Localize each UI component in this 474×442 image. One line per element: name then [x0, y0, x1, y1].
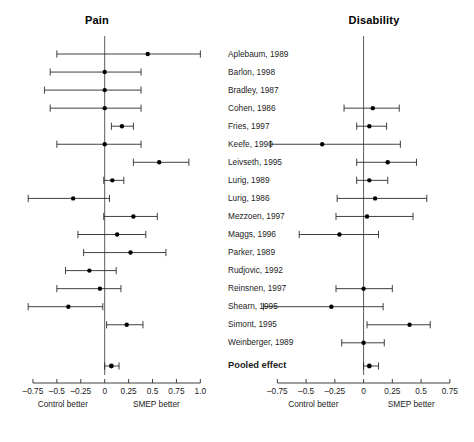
x-axis-tick-label: 0.5 [147, 386, 159, 396]
forest-row [28, 195, 109, 202]
effect-marker [367, 124, 371, 128]
study-label: Shearn, 1995 [228, 302, 278, 310]
forest-row [336, 285, 392, 292]
axis-caption-control-better: Control better [15, 399, 111, 409]
effect-marker [120, 124, 124, 128]
effect-marker [102, 142, 106, 146]
study-label: Rudjovic, 1992 [228, 266, 283, 274]
effect-marker [371, 106, 375, 110]
forest-row [28, 303, 103, 310]
effect-marker [124, 323, 128, 327]
effect-marker [102, 106, 106, 110]
forest-row [342, 339, 385, 346]
effect-marker [115, 232, 119, 236]
forest-row [357, 177, 388, 184]
x-axis-tick-label: 0 [361, 386, 366, 396]
x-axis-tick-label: 0.25 [384, 386, 400, 396]
forest-row [299, 231, 378, 238]
axis-caption-control-better: Control better [257, 399, 370, 409]
effect-marker [87, 268, 91, 272]
forest-row [270, 141, 400, 148]
study-label: Barlon, 1998 [228, 68, 275, 76]
effect-marker [361, 341, 365, 345]
study-label: Weinberger, 1989 [228, 338, 293, 346]
x-axis-tick-label: –0.5 [298, 386, 314, 396]
effect-marker [102, 88, 106, 92]
effect-marker [110, 178, 114, 182]
forest-row [57, 141, 141, 148]
study-label: Mezzoen, 1997 [228, 212, 285, 220]
study-label: Leivseth, 1995 [228, 158, 282, 166]
axis-caption-smep-better: SMEP better [101, 399, 212, 409]
x-axis-tick-label: 0.75 [442, 386, 458, 396]
x-axis-tick-label: –0.25 [324, 386, 345, 396]
x-axis-tick-label: –0.75 [23, 386, 44, 396]
forest-row [367, 321, 430, 328]
effect-marker [329, 305, 333, 309]
forest-row [50, 68, 141, 75]
study-label: Parker, 1989 [228, 248, 275, 256]
forest-row [78, 231, 146, 238]
forest-row [336, 213, 413, 220]
forest-row [84, 249, 166, 256]
x-axis-tick-label: 0.5 [415, 386, 427, 396]
effect-marker [66, 305, 70, 309]
effect-marker [337, 232, 341, 236]
study-label: Maggs, 1996 [228, 230, 276, 238]
forest-row [107, 321, 143, 328]
study-label: Lurig, 1989 [228, 176, 270, 184]
study-label: Fries, 1997 [228, 122, 270, 130]
effect-marker [157, 160, 161, 164]
x-axis-tick-label: 0.75 [168, 386, 184, 396]
forest-row [337, 195, 427, 202]
effect-marker [367, 364, 372, 369]
study-label: Lurig, 1986 [228, 194, 270, 202]
axis-caption-smep-better: SMEP better [360, 399, 463, 409]
x-axis-tick-label: –0.75 [267, 386, 288, 396]
effect-marker [128, 250, 132, 254]
effect-marker [146, 52, 150, 56]
forest-row [133, 159, 188, 166]
forest-plot-figure: Pain Disability Aplebaum, 1989Barlon, 19… [0, 0, 474, 442]
forest-row [44, 87, 141, 94]
x-axis-tick-label: 1.0 [195, 386, 207, 396]
study-label: Reinsnen, 1997 [228, 284, 286, 292]
pooled-effect-row [105, 362, 119, 369]
study-label: Bradley, 1987 [228, 86, 279, 94]
x-axis-tick-label: –0.25 [70, 386, 91, 396]
forest-row [357, 123, 387, 130]
forest-row [104, 177, 124, 184]
x-axis-tick-label: –0.5 [49, 386, 65, 396]
study-label: Cohen, 1986 [228, 104, 276, 112]
effect-marker [71, 196, 75, 200]
study-label: Simont, 1995 [228, 320, 277, 328]
forest-row [111, 123, 133, 130]
forest-row [65, 267, 116, 274]
effect-marker [407, 323, 411, 327]
forest-row [344, 105, 399, 112]
effect-marker [109, 364, 114, 369]
forest-row [357, 159, 417, 166]
study-label: Aplebaum, 1989 [228, 50, 288, 58]
forest-row [264, 303, 384, 310]
forest-row [57, 50, 200, 57]
pooled-effect-row [364, 362, 379, 369]
effect-marker [365, 214, 369, 218]
effect-marker [102, 70, 106, 74]
effect-marker [386, 160, 390, 164]
forest-row [57, 285, 121, 292]
forest-row [104, 213, 158, 220]
effect-marker [373, 196, 377, 200]
effect-marker [98, 286, 102, 290]
effect-marker [361, 286, 365, 290]
effect-marker [367, 178, 371, 182]
effect-marker [131, 214, 135, 218]
x-axis-tick-label: 0 [102, 386, 107, 396]
study-label: Keefe, 1990 [228, 140, 273, 148]
pooled-effect-label: Pooled effect [228, 361, 286, 370]
forest-row [50, 105, 141, 112]
x-axis-tick-label: 0.25 [121, 386, 137, 396]
effect-marker [320, 142, 324, 146]
